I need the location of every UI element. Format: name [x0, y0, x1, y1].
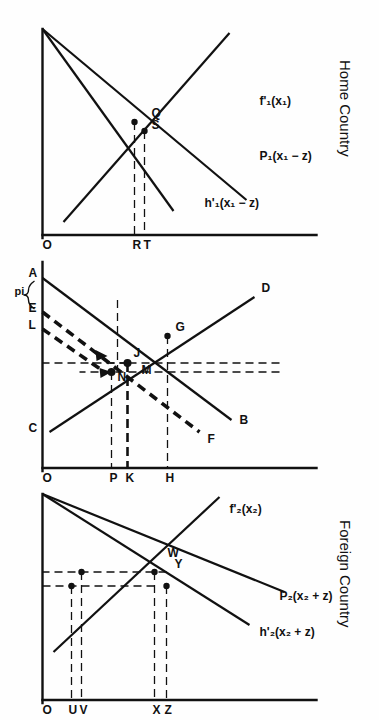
axis-tick-market-H: H	[165, 471, 174, 485]
foreign-point-W	[151, 569, 157, 575]
label-P1-home: P₁(x₁ − z)	[259, 149, 311, 163]
foreign-point-Y	[163, 583, 169, 589]
panel-foreign-country: Foreign Country	[42, 494, 353, 717]
label-point-S: S	[151, 118, 159, 132]
label-h2-foreign: h'₂(x₂ + z)	[259, 625, 314, 639]
axis-tick-foreign-Z: Z	[164, 703, 171, 717]
label-P2-foreign: P₂(x₂ + z)	[279, 589, 332, 603]
label-point-Y: Y	[174, 557, 182, 571]
label-D-market: D	[261, 281, 270, 295]
figure-page: Home Country f'₁(x₁) P₁(x₁	[0, 0, 379, 720]
axis-tick-home-O: O	[42, 238, 51, 252]
three-panel-economics-diagram: Home Country f'₁(x₁) P₁(x₁	[0, 0, 379, 720]
panel-home-country: Home Country f'₁(x₁) P₁(x₁	[42, 29, 353, 252]
baseline-label-pi: pi	[14, 285, 24, 297]
curve-f2-foreign	[53, 497, 219, 652]
baseline-label-A: A	[28, 266, 37, 280]
rotated-figure-container: Home Country f'₁(x₁) P₁(x₁	[0, 0, 379, 720]
curve-f1-home	[63, 33, 229, 222]
foreign-point-U-mark	[78, 569, 84, 575]
axis-tick-home-T: T	[143, 238, 151, 252]
panel-market: D B F G J M N A pi E L C O P K	[14, 262, 316, 485]
curve-h2-foreign	[42, 494, 249, 625]
axis-tick-foreign-U: U	[68, 703, 77, 717]
label-point-G: G	[175, 320, 184, 334]
panel-title-foreign: Foreign Country	[336, 520, 353, 628]
axis-tick-market-P: P	[109, 471, 117, 485]
home-point-Q	[131, 119, 137, 125]
label-h1-home: h'₁(x₁ − z)	[204, 196, 258, 210]
axis-tick-foreign-O: O	[42, 703, 51, 717]
label-B-market: B	[239, 413, 248, 427]
baseline-label-L: L	[28, 318, 35, 332]
market-point-N	[107, 368, 115, 376]
axis-tick-market-K: K	[125, 471, 134, 485]
label-point-M: M	[141, 363, 151, 377]
label-F-market: F	[207, 432, 214, 446]
label-f1-home: f'₁(x₁)	[259, 94, 290, 108]
market-point-G	[164, 333, 170, 339]
axis-tick-foreign-V: V	[79, 703, 87, 717]
axis-tick-home-R: R	[132, 238, 141, 252]
foreign-point-V-mark	[68, 583, 74, 589]
axis-tick-market-O: O	[42, 471, 51, 485]
curve-D-market	[49, 297, 254, 432]
label-f2-foreign: f'₂(x₂)	[229, 502, 261, 516]
baseline-label-C: C	[28, 421, 37, 435]
label-point-J: J	[133, 346, 140, 360]
panel-title-home: Home Country	[336, 60, 353, 157]
axis-tick-foreign-X: X	[152, 703, 160, 717]
